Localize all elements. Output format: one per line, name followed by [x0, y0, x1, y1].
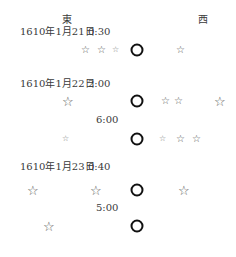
moon-star-icon: ☆ [27, 184, 39, 197]
moon-star-icon: ☆ [214, 95, 226, 108]
moon-star-icon: ☆ [176, 45, 185, 55]
jupiter-circle-icon [131, 184, 144, 197]
obs2-subtime: 6:00 [96, 114, 118, 126]
moon-star-icon: ☆ [90, 184, 102, 197]
moon-star-icon: ☆ [112, 46, 119, 54]
jupiter-circle-icon [131, 44, 144, 57]
moon-star-icon: ☆ [159, 135, 166, 143]
moon-star-icon: ☆ [81, 45, 90, 55]
jupiter-circle-icon [131, 95, 144, 108]
obs2-time: 2:00 [88, 78, 110, 90]
obs3-time: 0:40 [88, 161, 110, 173]
obs2-date: 1610年1月22日 [20, 78, 95, 90]
east-label: 東 [62, 14, 72, 26]
obs3-subtime: 5:00 [96, 202, 118, 214]
moon-star-icon: ☆ [192, 134, 201, 144]
moon-star-icon: ☆ [176, 134, 185, 144]
west-label: 西 [198, 14, 208, 26]
moon-star-icon: ☆ [97, 45, 106, 55]
obs1-time: 0:30 [88, 26, 110, 38]
obs1-date: 1610年1月21日 [20, 26, 95, 38]
moon-star-icon: ☆ [43, 220, 55, 233]
moon-star-icon: ☆ [161, 96, 170, 106]
jupiter-circle-icon [131, 133, 144, 146]
moon-star-icon: ☆ [178, 184, 190, 197]
moon-star-icon: ☆ [62, 135, 69, 143]
moon-star-icon: ☆ [62, 95, 74, 108]
obs3-date: 1610年1月23日 [20, 161, 95, 173]
moon-star-icon: ☆ [174, 96, 183, 106]
jupiter-circle-icon [131, 220, 144, 233]
